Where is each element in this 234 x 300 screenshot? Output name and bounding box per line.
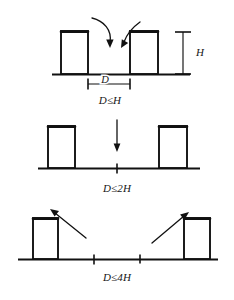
panel-2-left-block	[48, 126, 75, 168]
figure-root: H D D≤H	[0, 0, 234, 300]
panel-1-right-block	[130, 31, 158, 74]
panel-1-inflow-arrow-left	[92, 18, 114, 48]
dimension-label-H: H	[195, 46, 205, 58]
panel-1-caption: D≤H	[98, 94, 122, 106]
panel-1-height-dimension	[175, 32, 191, 74]
block-spacing-diagram: H D D≤H	[0, 0, 234, 300]
panel-2-caption: D≤2H	[102, 182, 132, 194]
panel-2-inflow-arrow-down	[114, 120, 121, 152]
panel-1-left-block	[61, 31, 88, 74]
panel-3-left-block	[33, 218, 58, 259]
panel-2-right-block	[159, 126, 187, 168]
panel-2-group: D≤2H	[38, 120, 200, 194]
panel-3-right-block	[184, 218, 210, 259]
panel-1-group: H D D≤H	[52, 18, 205, 106]
panel-1-gap-dimension	[88, 79, 130, 90]
dimension-label-D: D	[100, 74, 109, 85]
panel-3-caption: D≤4H	[102, 271, 132, 283]
panel-3-group: D≤4H	[18, 209, 218, 283]
